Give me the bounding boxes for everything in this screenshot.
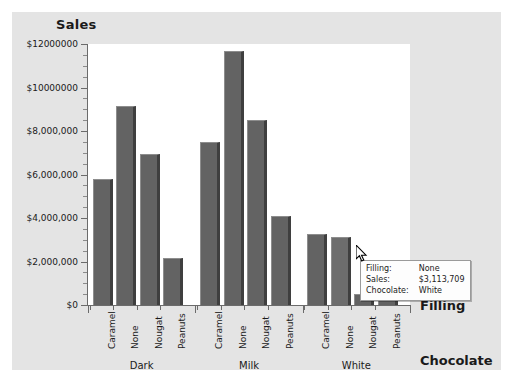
y-axis-tick-label: $2,000,000 bbox=[26, 257, 78, 267]
x-axis-filling-label: None bbox=[238, 326, 248, 349]
x-axis-tick bbox=[351, 305, 352, 310]
y-axis-major-tick bbox=[81, 218, 87, 219]
x-axis-filling-label: Nougat bbox=[154, 316, 164, 349]
y-axis-minor-tick bbox=[83, 164, 87, 165]
bar[interactable] bbox=[163, 258, 183, 305]
bar[interactable] bbox=[93, 179, 113, 305]
y-axis-major-tick bbox=[81, 305, 87, 306]
y-axis-minor-tick bbox=[83, 77, 87, 78]
y-axis-tick-label: $6,000,000 bbox=[26, 170, 78, 180]
bar[interactable] bbox=[307, 234, 327, 305]
x-axis-filling-label: Peanuts bbox=[285, 313, 295, 349]
x-axis-tick bbox=[197, 305, 198, 310]
y-axis-minor-tick bbox=[83, 240, 87, 241]
x-axis-group-tick bbox=[410, 305, 411, 313]
y-axis-minor-tick bbox=[83, 294, 87, 295]
x-axis-filling-label: Caramel bbox=[214, 311, 224, 349]
y-axis-minor-tick bbox=[83, 283, 87, 284]
x-axis-tick bbox=[90, 305, 91, 310]
x-axis-filling-label: Nougat bbox=[368, 316, 378, 349]
tooltip-value: None bbox=[419, 264, 465, 275]
y-axis-minor-tick bbox=[83, 196, 87, 197]
tooltip-value: White bbox=[419, 286, 465, 297]
chocolate-group-label: Milk bbox=[239, 360, 259, 371]
x-axis-group-tick bbox=[88, 305, 89, 313]
chocolate-group-label: Dark bbox=[130, 360, 154, 371]
y-axis-minor-tick bbox=[83, 142, 87, 143]
x-axis-tick bbox=[221, 305, 222, 310]
bar[interactable] bbox=[271, 216, 291, 305]
y-axis-minor-tick bbox=[83, 272, 87, 273]
x-axis-tick bbox=[328, 305, 329, 310]
y-axis-tick-labels: $0$2,000,000$4,000,000$6,000,000$8,000,0… bbox=[12, 12, 78, 370]
bar[interactable] bbox=[247, 120, 267, 305]
x-axis-filling-label: Caramel bbox=[107, 311, 117, 349]
y-axis-minor-tick bbox=[83, 251, 87, 252]
x-axis-group-tick bbox=[195, 305, 196, 313]
x-axis-tick bbox=[304, 305, 305, 310]
y-axis-minor-tick bbox=[83, 55, 87, 56]
x-axis-tick bbox=[244, 305, 245, 310]
bar[interactable] bbox=[224, 51, 244, 305]
y-axis-major-tick bbox=[81, 262, 87, 263]
bar[interactable] bbox=[200, 142, 220, 305]
mouse-pointer-icon bbox=[356, 245, 368, 263]
x-axis-filling-label: Nougat bbox=[261, 316, 271, 349]
x-axis-tick bbox=[160, 305, 161, 310]
y-axis-minor-tick bbox=[83, 66, 87, 67]
tooltip-row: Chocolate:White bbox=[366, 286, 465, 297]
x-axis-tick bbox=[268, 305, 269, 310]
y-axis-tick-label: $4,000,000 bbox=[26, 213, 78, 223]
y-axis-minor-tick bbox=[83, 207, 87, 208]
x-axis-group-tick bbox=[303, 305, 304, 313]
y-axis-minor-tick bbox=[83, 98, 87, 99]
y-axis-major-tick bbox=[81, 131, 87, 132]
tooltip-key: Filling: bbox=[366, 264, 419, 275]
chocolate-group-label: White bbox=[342, 360, 371, 371]
y-axis-tick-label: $8,000,000 bbox=[26, 126, 78, 136]
y-axis-minor-tick bbox=[83, 185, 87, 186]
chocolate-axis-title: Chocolate bbox=[420, 353, 493, 368]
y-axis-major-tick bbox=[81, 44, 87, 45]
bar[interactable] bbox=[331, 237, 351, 305]
bar[interactable] bbox=[140, 154, 160, 305]
y-axis-major-tick bbox=[81, 175, 87, 176]
x-axis-filling-label: Caramel bbox=[321, 311, 331, 349]
x-axis-tick bbox=[375, 305, 376, 310]
x-axis-filling-label: None bbox=[130, 326, 140, 349]
bar[interactable] bbox=[116, 106, 136, 305]
y-axis-tick-label: $10000000 bbox=[26, 83, 78, 93]
tooltip-key: Chocolate: bbox=[366, 286, 419, 297]
y-axis-tick-label: $0 bbox=[67, 300, 78, 310]
tooltip-row: Filling:None bbox=[366, 264, 465, 275]
x-axis-filling-label: None bbox=[345, 326, 355, 349]
y-axis-minor-tick bbox=[83, 109, 87, 110]
y-axis-minor-tick bbox=[83, 229, 87, 230]
tooltip-row: Sales:$3,113,709 bbox=[366, 275, 465, 286]
chart-panel: Sales $0$2,000,000$4,000,000$6,000,000$8… bbox=[12, 12, 501, 370]
tooltip-key: Sales: bbox=[366, 275, 419, 286]
y-axis-minor-tick bbox=[83, 120, 87, 121]
x-axis-tick bbox=[113, 305, 114, 310]
tooltip-value: $3,113,709 bbox=[419, 275, 465, 286]
x-axis-filling-label: Peanuts bbox=[392, 313, 402, 349]
x-axis-line bbox=[87, 305, 411, 306]
y-axis-line bbox=[87, 44, 88, 306]
x-axis-tick bbox=[137, 305, 138, 310]
y-axis-minor-tick bbox=[83, 153, 87, 154]
tooltip-table: Filling:NoneSales:$3,113,709Chocolate:Wh… bbox=[366, 264, 465, 296]
y-axis-major-tick bbox=[81, 88, 87, 89]
data-point-tooltip: Filling:NoneSales:$3,113,709Chocolate:Wh… bbox=[360, 260, 471, 301]
x-axis-filling-label: Peanuts bbox=[177, 313, 187, 349]
y-axis-tick-label: $12000000 bbox=[26, 39, 78, 49]
